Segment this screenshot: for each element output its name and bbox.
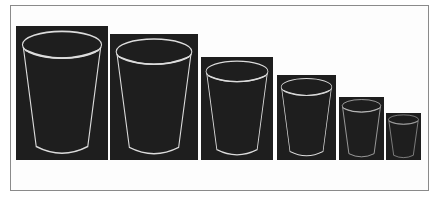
- cup-outline-icon: [16, 26, 108, 160]
- cup-outline-icon: [110, 34, 198, 160]
- cup-outline-icon: [277, 75, 336, 160]
- cup-outline-icon: [339, 97, 384, 160]
- cup-image-6: [386, 113, 421, 160]
- cup-image-5: [339, 97, 384, 160]
- cup-image-3: [201, 57, 273, 160]
- cup-outline-icon: [201, 57, 273, 160]
- cup-image-2: [110, 34, 198, 160]
- cup-image-1: [16, 26, 108, 160]
- cup-outline-icon: [386, 113, 421, 160]
- cup-image-4: [277, 75, 336, 160]
